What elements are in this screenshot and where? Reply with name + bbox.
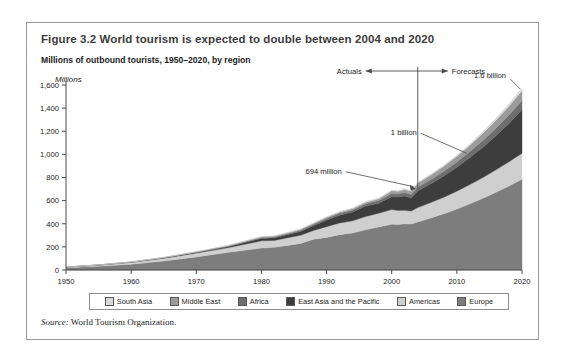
billion-leader-line bbox=[421, 133, 467, 153]
y-tick-label: 200 bbox=[46, 243, 59, 252]
legend-label: Americas bbox=[409, 297, 440, 306]
legend-item: Americas bbox=[397, 297, 440, 306]
peak-leader-line bbox=[510, 79, 520, 89]
legend-item: Africa bbox=[238, 297, 269, 306]
x-tick-label: 1980 bbox=[253, 277, 270, 286]
x-tick-label: 2020 bbox=[514, 277, 531, 286]
peak-label: 1.6 billion bbox=[474, 71, 506, 80]
legend-item: Europe bbox=[457, 297, 493, 306]
y-tick-label: 1,600 bbox=[40, 81, 59, 90]
actuals-label: Actuals bbox=[337, 67, 362, 76]
legend-label: East Asia and the Pacific bbox=[298, 297, 379, 306]
x-tick-label: 1950 bbox=[58, 277, 75, 286]
legend-item: South Asia bbox=[105, 297, 152, 306]
legend-swatch-icon bbox=[105, 297, 114, 306]
legend-item: East Asia and the Pacific bbox=[286, 297, 379, 306]
y-tick-label: 600 bbox=[46, 196, 59, 205]
legend-label: Europe bbox=[469, 297, 493, 306]
legend-label: Middle East bbox=[182, 297, 221, 306]
source-note: Source: World Tourism Organization. bbox=[41, 317, 176, 327]
figure-panel: Figure 3.2 World tourism is expected to … bbox=[26, 22, 539, 340]
billion-label: 1 billion bbox=[391, 128, 417, 137]
legend-swatch-icon bbox=[397, 297, 406, 306]
x-tick-label: 1990 bbox=[318, 277, 335, 286]
legend-item: Middle East bbox=[170, 297, 221, 306]
source-text: World Tourism Organization. bbox=[69, 317, 177, 327]
current-value-label: 694 million bbox=[305, 167, 341, 176]
y-tick-label: 0 bbox=[55, 266, 59, 275]
legend-swatch-icon bbox=[238, 297, 247, 306]
x-tick-label: 2000 bbox=[383, 277, 400, 286]
x-tick-label: 2010 bbox=[448, 277, 465, 286]
chart-legend: South AsiaMiddle EastAfricaEast Asia and… bbox=[89, 293, 509, 310]
y-tick-label: 1,200 bbox=[40, 127, 59, 136]
y-tick-label: 1,400 bbox=[40, 104, 59, 113]
source-label: Source: bbox=[41, 317, 69, 327]
y-tick-label: 800 bbox=[46, 173, 59, 182]
x-tick-label: 1970 bbox=[188, 277, 205, 286]
legend-swatch-icon bbox=[457, 297, 466, 306]
y-tick-label: 1,000 bbox=[40, 150, 59, 159]
legend-label: South Asia bbox=[117, 297, 152, 306]
x-tick-label: 1960 bbox=[123, 277, 140, 286]
legend-label: Africa bbox=[250, 297, 269, 306]
y-tick-label: 400 bbox=[46, 220, 59, 229]
current-leader-line bbox=[346, 172, 414, 187]
forecasts-arrow-head bbox=[442, 69, 448, 74]
legend-swatch-icon bbox=[286, 297, 295, 306]
actuals-arrow-head bbox=[366, 69, 372, 74]
legend-swatch-icon bbox=[170, 297, 179, 306]
